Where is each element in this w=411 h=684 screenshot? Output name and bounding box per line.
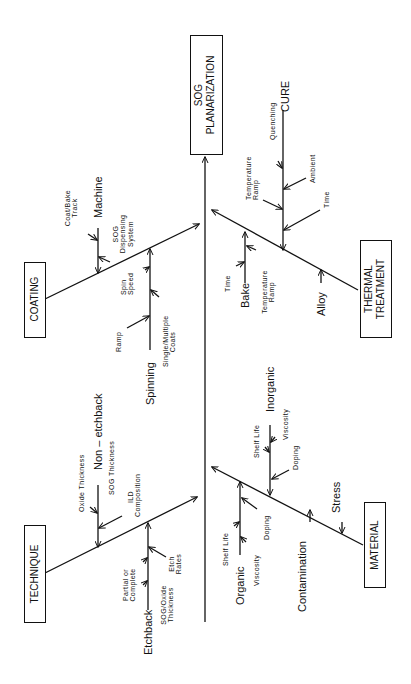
- stress-label: Stress: [331, 482, 343, 513]
- bake-temperature-ramp-label: Temperature Ramp: [261, 269, 276, 315]
- thermal-bone: [212, 210, 358, 290]
- machine-label: Machine: [93, 176, 105, 218]
- organic-shelf-life-label: Shelf Life: [222, 533, 229, 566]
- coat-bake-track-label: Coat/Bake Track: [64, 188, 79, 228]
- inorganic-shelf-life-label: Shelf Life: [253, 425, 260, 458]
- inorganic-label: Inorganic: [265, 367, 277, 412]
- material-label: MATERIAL: [369, 510, 381, 580]
- effect-label-line1: SOG: [193, 50, 205, 140]
- sog-oxide-thickness-label: SOG/Oxide Thickness: [160, 585, 175, 625]
- organic-label: Organic: [235, 566, 247, 605]
- ambient-label: Ambient: [309, 155, 316, 183]
- organic-viscosity-label: Viscosity: [253, 555, 260, 586]
- oxide-thickness-label: Oxide Thickness: [78, 454, 85, 512]
- thermal-label-line2: TREATMENT: [375, 248, 387, 330]
- etch-rates-label: Etch Rates: [168, 553, 183, 575]
- bake-time-label: Time: [224, 275, 231, 292]
- non-etchback-label: Non – etchback: [93, 394, 105, 470]
- etchback-label: Etchback: [143, 610, 155, 655]
- spinning-label: Spinning: [145, 362, 157, 405]
- alloy-label: Alloy: [316, 292, 328, 316]
- thermal-label: THERMAL TREATMENT: [363, 248, 386, 330]
- ild-composition-label: ILD Composition: [127, 477, 142, 517]
- coating-label: COATING: [29, 270, 41, 328]
- inorganic-doping-label: Doping: [292, 445, 299, 470]
- bake-label: Bake: [240, 283, 252, 308]
- technique-label: TECHNIQUE: [29, 534, 41, 614]
- spin-speed-label: Spin Speed: [120, 273, 135, 295]
- effect-label-line2: PLANARIZATION: [205, 50, 217, 140]
- partial-complete-label: Partial or Complete: [122, 565, 137, 605]
- cure-time-label: Time: [323, 191, 330, 208]
- cure-temperature-ramp-label: Temperature Ramp: [245, 154, 260, 200]
- single-multiple-coats-label: Single/Multiple Coats: [162, 317, 177, 367]
- effect-label: SOG PLANARIZATION: [193, 50, 216, 140]
- ramp-label: Ramp: [115, 332, 122, 352]
- contamination-label: Contamination: [297, 541, 309, 612]
- thermal-label-line1: THERMAL: [363, 248, 375, 330]
- sog-dispensing-label: SOG Dispensing System: [112, 206, 134, 262]
- organic-doping-label: Doping: [263, 515, 270, 540]
- cure-label: CURE: [280, 81, 292, 112]
- sog-thickness-label: SOG Thickness: [108, 441, 115, 495]
- quenching-label: Quenching: [269, 103, 276, 140]
- inorganic-viscosity-label: Viscosity: [282, 409, 289, 440]
